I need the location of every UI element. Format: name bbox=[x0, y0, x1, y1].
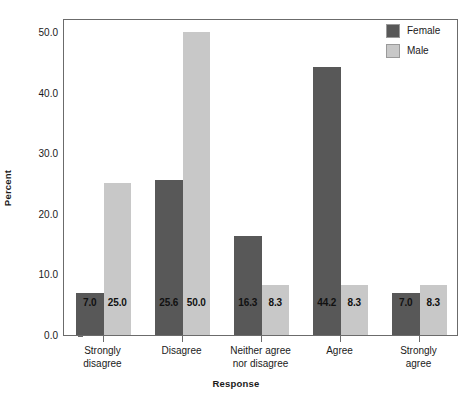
bar-chart: Percent 0.010.020.030.040.050.0 7.025.02… bbox=[0, 0, 472, 398]
bar-value-label: 8.3 bbox=[341, 297, 369, 308]
bar-value-label: 25.6 bbox=[155, 297, 183, 308]
bar-value-label: 7.0 bbox=[392, 297, 420, 308]
bar-value-label: 25.0 bbox=[104, 297, 132, 308]
bar[interactable] bbox=[104, 183, 132, 335]
y-tick-mark bbox=[78, 336, 83, 337]
x-tick-mark bbox=[182, 336, 183, 342]
legend-swatch-male bbox=[386, 44, 400, 58]
bar-value-label: 50.0 bbox=[183, 297, 211, 308]
bar[interactable] bbox=[420, 285, 448, 335]
y-tick-label: 10.0 bbox=[22, 270, 58, 280]
bar-value-label: 8.3 bbox=[262, 297, 290, 308]
bar[interactable] bbox=[234, 236, 262, 335]
x-category-label: Strongly agree bbox=[369, 345, 469, 370]
legend-label-female: Female bbox=[407, 25, 440, 36]
y-tick-label: 50.0 bbox=[22, 28, 58, 38]
bar[interactable] bbox=[183, 32, 211, 335]
bar[interactable] bbox=[341, 285, 369, 335]
bar-value-label: 8.3 bbox=[420, 297, 448, 308]
bar[interactable] bbox=[155, 180, 183, 335]
legend-label-male: Male bbox=[407, 45, 429, 56]
plot-area: 7.025.025.650.016.38.344.28.37.08.3 bbox=[63, 19, 458, 336]
y-tick-label: 40.0 bbox=[22, 89, 58, 99]
legend: Female Male bbox=[386, 22, 440, 62]
legend-swatch-female bbox=[386, 24, 400, 38]
bars-container: 7.025.025.650.016.38.344.28.37.08.3 bbox=[64, 20, 457, 335]
bar-value-label: 44.2 bbox=[313, 297, 341, 308]
legend-item-male[interactable]: Male bbox=[386, 42, 440, 59]
x-axis-title: Response bbox=[0, 378, 472, 389]
y-tick-label: 0.0 bbox=[22, 331, 58, 341]
y-tick-label: 20.0 bbox=[22, 210, 58, 220]
bar[interactable] bbox=[262, 285, 290, 335]
legend-item-female[interactable]: Female bbox=[386, 22, 440, 39]
x-tick-mark bbox=[261, 336, 262, 342]
y-tick-label: 30.0 bbox=[22, 149, 58, 159]
bar-value-label: 7.0 bbox=[76, 297, 104, 308]
y-axis-title: Percent bbox=[2, 148, 13, 228]
bar-value-label: 16.3 bbox=[234, 297, 262, 308]
y-axis-ticks: 0.010.020.030.040.050.0 bbox=[20, 0, 58, 398]
x-tick-mark bbox=[419, 336, 420, 342]
x-tick-mark bbox=[103, 336, 104, 342]
x-tick-mark bbox=[340, 336, 341, 342]
bar[interactable] bbox=[313, 67, 341, 335]
